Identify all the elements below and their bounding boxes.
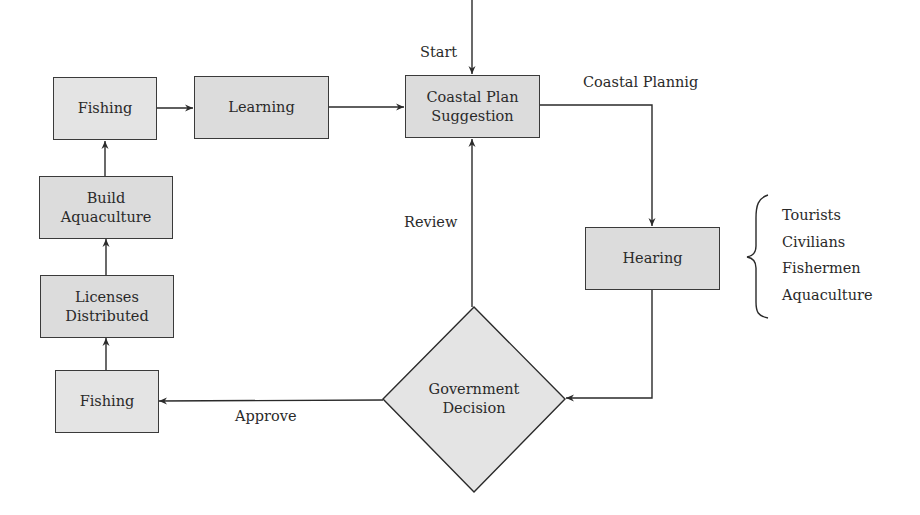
coastal-plan-line1: Coastal Plan <box>426 88 518 107</box>
coastal-to-hearing-arrow <box>540 105 652 226</box>
stakeholder-fishermen: Fishermen <box>782 255 873 282</box>
learning-label: Learning <box>228 98 294 117</box>
fishing-top-label: Fishing <box>78 99 133 118</box>
coastal-planning-edge-label: Coastal Plannig <box>583 73 698 91</box>
stakeholder-aquaculture: Aquaculture <box>782 282 873 309</box>
government-decision-label: Government Decision <box>414 380 534 418</box>
licenses-distributed-line2: Distributed <box>65 307 148 326</box>
coastal-plan-line2: Suggestion <box>431 107 513 126</box>
fishing-bottom-node[interactable]: Fishing <box>55 370 159 433</box>
government-decision-line1: Government <box>414 380 534 399</box>
stakeholder-tourists: Tourists <box>782 202 873 229</box>
stakeholder-civilians: Civilians <box>782 229 873 256</box>
build-aquaculture-node[interactable]: Build Aquaculture <box>39 176 173 239</box>
review-edge-label: Review <box>404 213 457 231</box>
coastal-plan-suggestion-node[interactable]: Coastal Plan Suggestion <box>405 75 540 138</box>
flowchart-canvas: Fishing Learning Coastal Plan Suggestion… <box>0 0 920 515</box>
build-aquaculture-line1: Build <box>87 189 126 208</box>
hearing-label: Hearing <box>622 249 682 268</box>
hearing-to-decision-arrow <box>566 290 652 398</box>
licenses-distributed-line1: Licenses <box>75 288 139 307</box>
licenses-distributed-node[interactable]: Licenses Distributed <box>40 275 174 338</box>
fishing-top-node[interactable]: Fishing <box>53 77 157 140</box>
fishing-bottom-label: Fishing <box>80 392 135 411</box>
government-decision-line2: Decision <box>414 399 534 418</box>
approve-arrow <box>159 400 383 401</box>
hearing-node[interactable]: Hearing <box>585 227 720 290</box>
start-edge-label: Start <box>420 43 457 61</box>
stakeholder-brace <box>747 195 768 318</box>
stakeholder-list: Tourists Civilians Fishermen Aquaculture <box>782 202 873 308</box>
build-aquaculture-line2: Aquaculture <box>61 208 152 227</box>
learning-node[interactable]: Learning <box>194 76 329 139</box>
approve-edge-label: Approve <box>235 407 296 425</box>
